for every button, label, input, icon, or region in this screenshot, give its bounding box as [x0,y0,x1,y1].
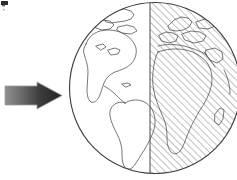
figure-root: Earth day and night terminator diagram [0,0,237,180]
earth-terminator-diagram [0,0,237,180]
